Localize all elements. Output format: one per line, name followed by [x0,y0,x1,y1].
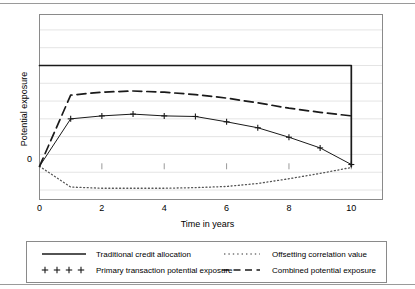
series-line-3 [40,91,352,166]
y-axis-title: Potential exposure [19,29,29,189]
potential-exposure-chart [0,0,415,289]
legend-label-traditional-credit-allocation: Traditional credit allocation [96,250,191,259]
y-tick-label-0: 0 [14,154,32,164]
x-tick-label-2: 2 [82,203,122,213]
x-axis-title: Time in years [0,219,415,229]
legend-label-combined-potential-exposure: Combined potential exposure [272,266,376,275]
x-tick-label-8: 8 [269,203,309,213]
legend-label-offsetting-correlation-value: Offsetting correlation value [272,250,367,259]
x-tick-label-4: 4 [144,203,184,213]
series-line-1 [40,166,352,188]
series-line-2 [40,114,352,166]
x-tick-label-0: 0 [20,203,60,213]
chart-figure: Time in years Potential exposure 0 0 2 4… [0,0,415,289]
legend-label-primary-transaction-potential-exposure: Primary transaction potential exposure [96,266,233,275]
legend-box [27,242,387,283]
x-tick-label-6: 6 [207,203,247,213]
x-tick-label-10: 10 [331,203,371,213]
